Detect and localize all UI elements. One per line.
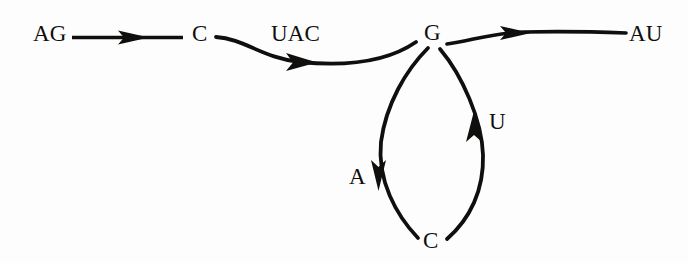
edge-ag-to-c [72,31,183,45]
edge-label-a: A [349,165,366,188]
node-label-c-top: C [192,22,208,45]
edge-c-to-g-right [440,49,483,239]
edge-label-uac: UAC [271,22,320,45]
edge-g-to-au-curve [447,32,626,44]
node-label-ag: AG [33,22,67,45]
diagram-edges-layer [0,0,688,263]
node-label-c-bottom: C [423,229,439,252]
diagram-canvas: AG C G AU C UAC A U [0,0,688,263]
edge-g-to-au [447,26,626,44]
edge-g-to-c-left-arc [380,48,428,238]
edge-g-to-c-left [371,48,428,238]
node-label-g: G [424,21,441,44]
edge-label-u: U [489,110,506,133]
edge-c-to-g-right-arc [440,49,483,239]
node-label-au: AU [629,22,663,45]
